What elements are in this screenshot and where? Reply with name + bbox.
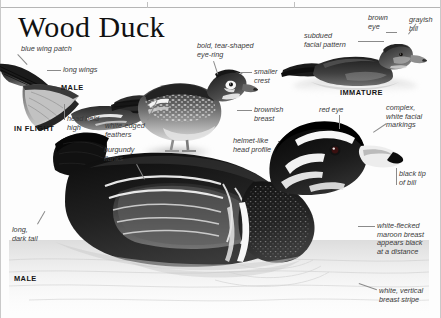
annotation-subdued-facial: subdued facial pattern — [304, 32, 346, 49]
figure-male-swimming — [9, 110, 429, 315]
annotation-blue-wing-patch: blue wing patch — [21, 45, 72, 54]
leader-line — [358, 41, 384, 42]
annotation-long-wings: long wings — [63, 66, 97, 75]
annotation-brown-eye: brown eye — [368, 14, 388, 31]
leader-line — [396, 168, 397, 185]
leader-line — [358, 226, 375, 227]
annotation-burgundy-flanks: burgundy flanks — [104, 146, 134, 163]
field-guide-page: Wood Duck — [0, 0, 441, 318]
annotation-grayish-bill: grayish bill — [409, 16, 433, 33]
leader-line — [47, 70, 61, 71]
page-title: Wood Duck — [18, 10, 165, 44]
annotation-smaller-crest: smaller crest — [254, 68, 278, 85]
caption-male-swim: MALE — [14, 274, 37, 283]
rule-tick — [147, 2, 148, 8]
annotation-white-vertical: white, vertical breast stripe — [379, 287, 423, 304]
top-rule — [1, 7, 440, 8]
annotation-black-tip: black tip of bill — [399, 170, 426, 187]
annotation-white-flecked: white-flecked maroon breast appears blac… — [377, 222, 424, 256]
leader-line — [339, 115, 340, 129]
leader-line — [386, 32, 397, 33]
annotation-bold-eye-ring: bold, tear-shaped eye-ring — [197, 42, 254, 59]
rule-tick — [294, 2, 295, 8]
caption-male-flight: MALE — [61, 83, 84, 92]
annotation-long-dark-tail: long, dark tail — [12, 226, 38, 243]
annotation-red-eye: red eye — [319, 106, 343, 115]
annotation-complex-white: complex, white facial markings — [386, 104, 422, 130]
leader-line — [240, 72, 252, 73]
caption-immature: IMMATURE — [340, 88, 383, 97]
